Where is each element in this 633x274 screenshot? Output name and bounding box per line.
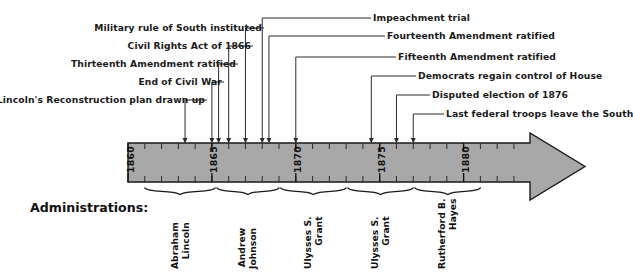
event-label: Impeachment trial: [373, 13, 470, 23]
year-label: 1870: [292, 146, 303, 173]
event-label: Last federal troops leave the South: [446, 109, 633, 119]
administration-label: Rutherford B.Hayes: [437, 199, 458, 269]
administration-label: Ulysses S.Grant: [370, 216, 391, 269]
administration-label: AndrewJohnson: [237, 228, 258, 269]
administration-braces: [145, 188, 481, 195]
event-label: Fourteenth Amendment ratified: [387, 31, 555, 41]
event-label: End of Civil War: [138, 77, 222, 87]
year-label: 1880: [460, 146, 471, 173]
administration-name-line2: Lincoln: [180, 222, 191, 269]
administration-label: Ulysses S.Grant: [303, 216, 324, 269]
event-label: Disputed election of 1876: [432, 90, 568, 100]
administration-label: AbrahamLincoln: [170, 222, 191, 269]
administration-name-line2: Grant: [313, 216, 324, 269]
administration-name-line1: Ulysses S.: [370, 216, 381, 269]
administrations-title: Administrations:: [30, 200, 148, 215]
timeline-arrow: [128, 133, 585, 200]
event-label: Military rule of South instituted: [94, 23, 262, 33]
administration-name-line1: Ulysses S.: [303, 216, 314, 269]
year-label: 1875: [376, 146, 387, 173]
event-label: Civil Rights Act of 1866: [128, 41, 251, 51]
year-label: 1860: [125, 146, 136, 173]
event-label: Democrats regain control of House: [418, 71, 602, 81]
event-label: Fifteenth Amendment ratified: [398, 52, 556, 62]
event-label: Lincoln's Reconstruction plan drawn up: [0, 95, 205, 105]
administration-name-line2: Johnson: [248, 228, 259, 269]
administration-name-line2: Grant: [381, 216, 392, 269]
year-label: 1865: [208, 146, 219, 173]
administration-name-line1: Abraham: [170, 222, 181, 269]
administration-name-line2: Hayes: [448, 199, 459, 269]
event-label: Thirteenth Amendment ratified: [71, 59, 236, 69]
